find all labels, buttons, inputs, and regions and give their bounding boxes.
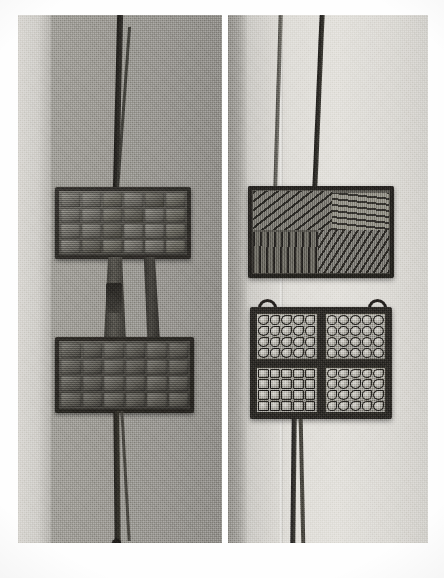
ring-stamp <box>270 401 281 411</box>
waffle-cell <box>82 240 101 254</box>
ring-stamp <box>270 369 281 379</box>
waffle-cell <box>104 376 124 391</box>
left-handle-end-knob <box>112 539 121 543</box>
ring-stamp <box>305 401 316 411</box>
right-background-dark-edge <box>228 15 247 543</box>
waffle-cell <box>61 393 81 408</box>
ring-stamp <box>327 326 338 336</box>
right-background-seam <box>280 15 283 543</box>
waffle-cell <box>103 193 122 207</box>
ring-stamp <box>362 326 373 336</box>
ring-stamp <box>327 337 338 347</box>
waffle-cell <box>103 209 122 223</box>
ring-stamp <box>362 379 373 389</box>
ring-stamp <box>270 348 281 358</box>
ring-stamp <box>270 326 281 336</box>
waffle-cell <box>147 343 167 358</box>
quadrant-wrapper <box>255 312 387 414</box>
ring-stamp <box>327 369 338 379</box>
quadrant-bottom-right <box>324 366 388 415</box>
ring-stamp <box>305 369 316 379</box>
waffle-cell <box>145 224 164 238</box>
ring-stamp <box>373 326 384 336</box>
ring-stamp <box>373 337 384 347</box>
left-lower-waffle-grid <box>61 343 188 407</box>
ring-stamp <box>373 390 384 400</box>
ring-stamp <box>327 390 338 400</box>
ring-stamp <box>293 369 304 379</box>
ring-stamp <box>281 337 292 347</box>
left-lower-handle-rod-secondary <box>120 411 130 541</box>
waffle-cell <box>103 240 122 254</box>
waffle-cell <box>147 360 167 375</box>
ring-stamp <box>281 379 292 389</box>
left-upper-waffle-grid <box>61 193 185 253</box>
ring-stamp <box>373 379 384 389</box>
waffle-cell <box>104 393 124 408</box>
waffle-cell <box>61 224 80 238</box>
waffle-cell <box>103 224 122 238</box>
right-photograph <box>228 15 428 543</box>
ring-stamp <box>293 401 304 411</box>
right-upper-handle-rod-primary <box>312 15 324 187</box>
ring-stamp <box>305 337 316 347</box>
ring-stamp <box>281 348 292 358</box>
waffle-cell <box>61 193 80 207</box>
ring-stamp <box>270 379 281 389</box>
ring-stamp <box>350 326 361 336</box>
left-hinge-pin <box>106 283 122 313</box>
waffle-cell <box>83 360 103 375</box>
ring-stamp <box>293 326 304 336</box>
waffle-cell <box>145 209 164 223</box>
ring-stamp <box>350 369 361 379</box>
ring-stamp <box>258 315 269 325</box>
ring-stamp <box>338 326 349 336</box>
ring-stamp <box>373 369 384 379</box>
waffle-cell <box>82 209 101 223</box>
ring-stamp <box>338 379 349 389</box>
ring-stamp <box>305 315 316 325</box>
ring-stamp <box>362 315 373 325</box>
waffle-cell <box>83 376 103 391</box>
ring-stamp <box>350 401 361 411</box>
ring-stamp <box>362 401 373 411</box>
ring-stamp <box>373 348 384 358</box>
right-upper-engraved-plate <box>248 186 394 278</box>
waffle-cell <box>145 193 164 207</box>
ring-stamp <box>338 348 349 358</box>
waffle-cell <box>83 343 103 358</box>
waffle-cell <box>124 193 143 207</box>
ring-stamp <box>338 315 349 325</box>
waffle-cell <box>124 224 143 238</box>
waffle-cell <box>169 360 189 375</box>
ring-stamp <box>362 390 373 400</box>
photographic-plate <box>0 0 444 578</box>
ring-stamp <box>258 348 269 358</box>
right-lower-handle-rod-primary <box>290 419 296 543</box>
left-photograph <box>18 15 222 543</box>
ring-stamp <box>373 401 384 411</box>
quadrant-top-left <box>255 312 319 361</box>
ring-stamp <box>327 348 338 358</box>
right-lower-handle-rod-secondary <box>299 419 306 543</box>
ring-stamp <box>258 369 269 379</box>
waffle-cell <box>83 393 103 408</box>
waffle-cell <box>61 343 81 358</box>
ring-stamp <box>293 379 304 389</box>
ring-stamp <box>362 369 373 379</box>
waffle-cell <box>169 343 189 358</box>
ring-stamp <box>327 379 338 389</box>
waffle-cell <box>169 376 189 391</box>
ring-stamp <box>373 315 384 325</box>
ring-stamp <box>350 315 361 325</box>
ring-stamp <box>258 401 269 411</box>
ring-stamp <box>350 390 361 400</box>
waffle-cell <box>124 240 143 254</box>
ring-stamp <box>305 348 316 358</box>
hatching-zone-lower-right <box>318 230 389 273</box>
waffle-cell <box>126 343 146 358</box>
right-lower-quadrant-plate <box>250 307 392 419</box>
ring-stamp <box>338 390 349 400</box>
waffle-cell <box>145 240 164 254</box>
hatching-zone-upper-right <box>332 193 389 231</box>
